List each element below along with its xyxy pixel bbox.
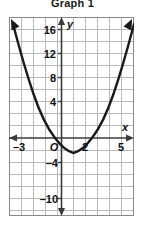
y-tick-label-8: 8 xyxy=(50,72,56,84)
x-axis-label: x xyxy=(121,121,129,133)
y-axis-label: y xyxy=(66,18,74,30)
x-tick-label-2: 2 xyxy=(82,141,88,153)
graph-plot-area: 16 12 8 4 –4 –10 –3 2 5 O y x xyxy=(9,17,134,216)
y-tick-label-12: 12 xyxy=(44,48,56,60)
y-tick-label-neg4: –4 xyxy=(46,157,59,169)
y-tick-label-4: 4 xyxy=(50,96,57,108)
y-tick-label-16: 16 xyxy=(44,24,56,36)
coordinate-grid-graph: 16 12 8 4 –4 –10 –3 2 5 O y x xyxy=(9,17,134,216)
origin-label: O xyxy=(50,141,59,153)
y-tick-label-neg10: –10 xyxy=(40,193,58,205)
x-tick-label-5: 5 xyxy=(118,141,124,153)
page-title: Graph 1 xyxy=(0,0,145,10)
x-tick-label-neg3: –3 xyxy=(13,141,25,153)
